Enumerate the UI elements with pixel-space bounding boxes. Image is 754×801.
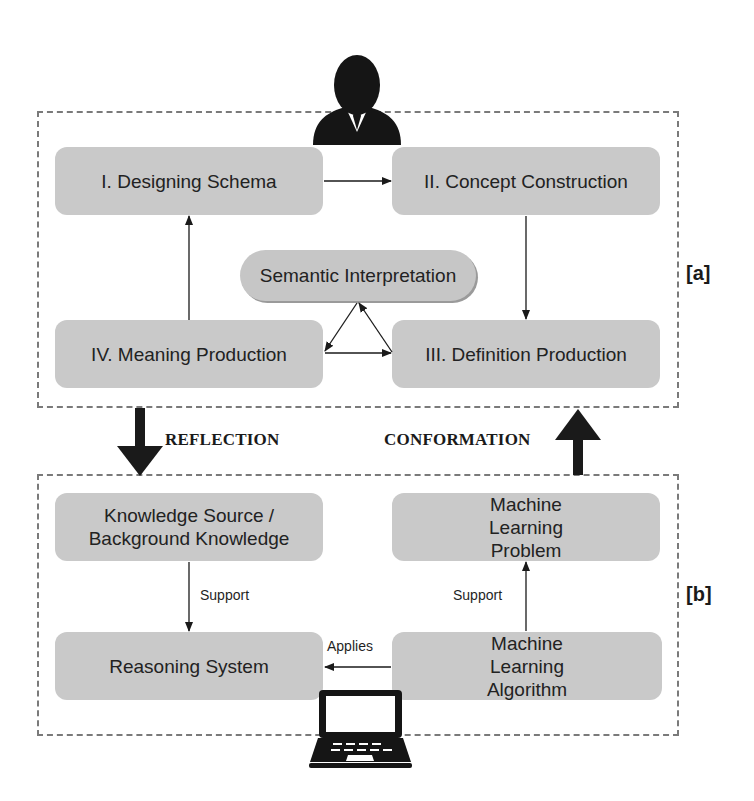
conformation-arrow-icon [555, 409, 601, 475]
node-designing-schema: I. Designing Schema [55, 147, 323, 215]
reflection-arrow-icon [117, 408, 163, 476]
reflection-label: REFLECTION [165, 430, 279, 450]
node-label: Reasoning System [109, 655, 268, 678]
node-reasoning-system: Reasoning System [55, 632, 323, 700]
applies-label: Applies [327, 638, 373, 654]
node-label: Knowledge Source / Background Knowledge [83, 504, 295, 550]
node-ml-algorithm: Machine Learning Algorithm [392, 632, 662, 700]
node-ml-problem: Machine Learning Problem [392, 493, 660, 561]
panel-a-tag: [a] [686, 262, 710, 285]
node-label: II. Concept Construction [424, 170, 628, 193]
node-semantic-interpretation: Semantic Interpretation [240, 250, 476, 301]
node-meaning-production: IV. Meaning Production [55, 320, 323, 388]
node-label: Machine Learning Algorithm [452, 632, 602, 701]
node-label: IV. Meaning Production [91, 343, 287, 366]
conformation-label: CONFORMATION [384, 430, 531, 450]
node-label: III. Definition Production [425, 343, 627, 366]
panel-b-tag: [b] [686, 583, 712, 606]
node-definition-production: III. Definition Production [392, 320, 660, 388]
support-label-right: Support [453, 587, 502, 603]
node-concept-construction: II. Concept Construction [392, 147, 660, 215]
node-label: Semantic Interpretation [260, 264, 456, 287]
node-label: Machine Learning Problem [452, 493, 600, 562]
node-label: I. Designing Schema [101, 170, 276, 193]
support-label-left: Support [200, 587, 249, 603]
node-knowledge-source: Knowledge Source / Background Knowledge [55, 493, 323, 561]
